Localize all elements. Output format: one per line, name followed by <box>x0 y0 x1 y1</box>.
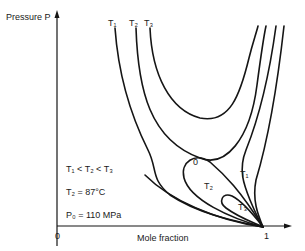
label-crossing-point: 0 <box>193 157 198 167</box>
label-t3-top: T₃ <box>144 18 153 28</box>
curve-t1-outer <box>115 28 263 227</box>
x-axis-arrow-icon <box>284 224 292 229</box>
label-t2-top: T₂ <box>129 18 138 28</box>
annotation-order: T₁ < T₂ < T₃ <box>66 164 113 174</box>
x-tick-1: 1 <box>264 231 269 241</box>
curve-t2-outer <box>136 26 266 160</box>
label-t1-top: T₁ <box>108 18 117 28</box>
y-axis-arrow-icon <box>55 10 60 18</box>
phase-diagram <box>0 0 305 251</box>
x-axis-label: Mole fraction <box>137 233 189 243</box>
curve-t3-u <box>150 26 258 119</box>
label-t1-loop: T₁ <box>240 169 249 179</box>
annotation-t2: T₂ = 87°C <box>66 187 105 197</box>
annotation-p0: P₀ = 110 MPa <box>66 210 121 220</box>
label-t3-loop: T₃ <box>238 202 247 212</box>
curve-t2-loop <box>183 158 263 227</box>
curve-t3-right <box>255 26 284 227</box>
x-tick-0: 0 <box>55 231 60 241</box>
y-axis-label: Pressure P <box>6 12 51 22</box>
label-t2-loop: T₂ <box>204 181 213 191</box>
